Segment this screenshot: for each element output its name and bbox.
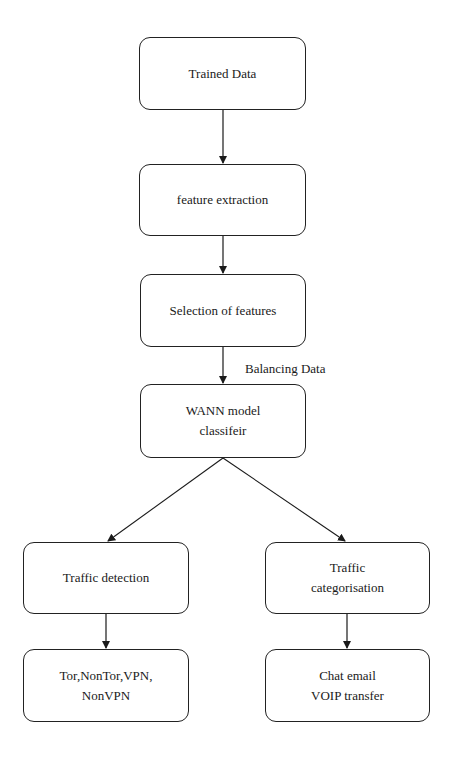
node-label: feature extraction: [177, 190, 268, 210]
node-label: Chat email VOIP transfer: [304, 666, 391, 706]
node-label: Trained Data: [189, 64, 257, 84]
node-label: Selection of features: [170, 301, 277, 321]
edge-wann-to-detection: [108, 458, 223, 541]
node-chat-email-voip-transfer: Chat email VOIP transfer: [265, 649, 430, 722]
node-feature-extraction: feature extraction: [139, 164, 306, 236]
node-selection-of-features: Selection of features: [140, 274, 306, 347]
node-label: WANN model classifeir: [183, 401, 263, 441]
node-wann-classifier: WANN model classifeir: [140, 384, 306, 458]
edge-wann-to-categorisation: [223, 458, 345, 541]
node-traffic-detection: Traffic detection: [23, 542, 189, 614]
node-tor-vpn-classes: Tor,NonTor,VPN, NonVPN: [23, 649, 189, 722]
node-traffic-categorisation: Traffic categorisation: [265, 542, 430, 614]
node-label: Traffic categorisation: [310, 558, 385, 598]
node-label: Traffic detection: [63, 568, 149, 588]
edge-label-balancing-data: Balancing Data: [245, 361, 326, 377]
node-label: Tor,NonTor,VPN, NonVPN: [58, 666, 154, 706]
node-trained-data: Trained Data: [139, 37, 306, 110]
